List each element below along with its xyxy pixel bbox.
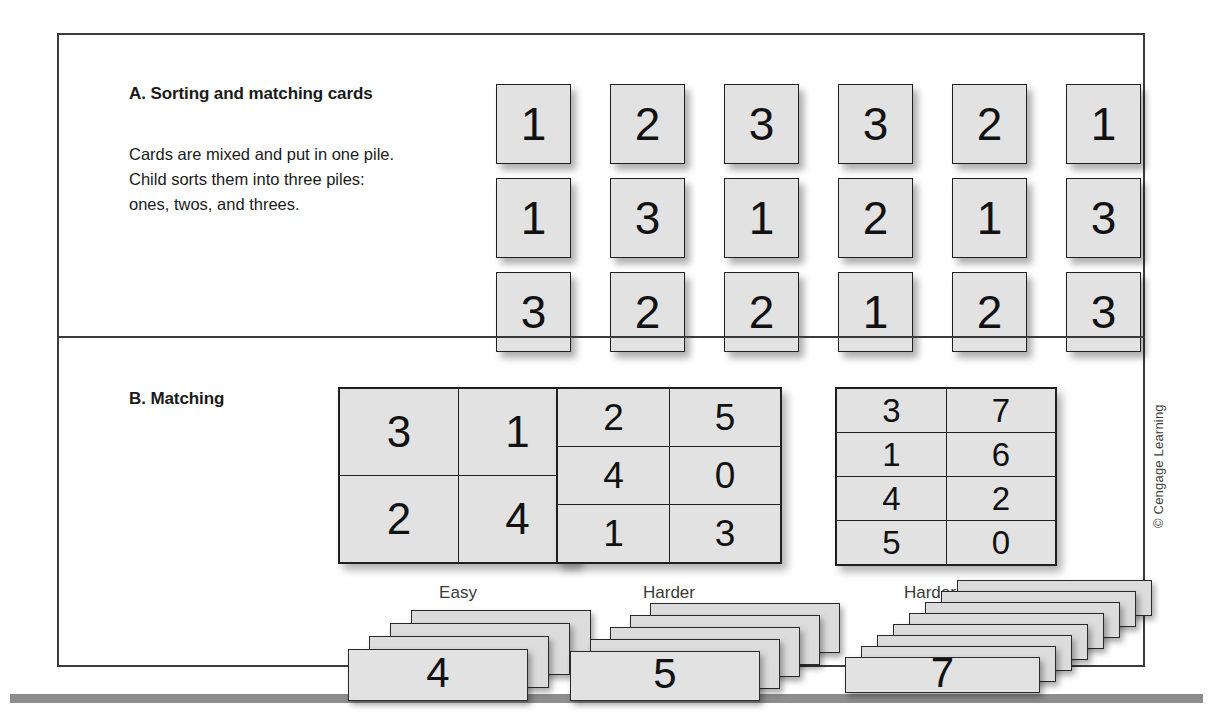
match-cell[interactable]: 1 [837, 433, 946, 476]
stack-card-front[interactable]: 5 [570, 651, 760, 701]
match-cell[interactable]: 4 [837, 477, 946, 520]
match-cell[interactable]: 0 [946, 521, 1055, 564]
number-card[interactable]: 1 [838, 272, 913, 352]
match-group-harder: 254013 Harder 5 [556, 387, 782, 564]
stack-front-value: 4 [426, 649, 449, 697]
copyright-note: © Cengage Learning [1151, 404, 1166, 528]
match-grid-easy: 3124 [338, 387, 578, 564]
panel-a-heading: A. Sorting and matching cards [129, 84, 373, 104]
match-cell[interactable]: 5 [837, 521, 946, 564]
number-card-grid: 123321131213322123 [496, 84, 1141, 352]
number-card[interactable]: 3 [1066, 178, 1141, 258]
number-card[interactable]: 1 [496, 178, 571, 258]
match-cell[interactable]: 2 [946, 477, 1055, 520]
number-card[interactable]: 2 [838, 178, 913, 258]
number-card[interactable]: 1 [1066, 84, 1141, 164]
match-group-harder-still: 37164250 Harder Still 7 [835, 387, 1057, 566]
difficulty-label-easy: Easy [338, 583, 578, 603]
number-card[interactable]: 2 [610, 272, 685, 352]
match-grid-row: 42 [837, 476, 1055, 520]
number-card[interactable]: 3 [838, 84, 913, 164]
match-cell[interactable]: 2 [340, 476, 458, 562]
match-cell[interactable]: 1 [558, 505, 669, 562]
match-grid-harder: 254013 [556, 387, 782, 564]
match-cell[interactable]: 2 [558, 389, 669, 446]
number-card[interactable]: 3 [610, 178, 685, 258]
match-cell[interactable]: 0 [669, 447, 780, 504]
number-card[interactable]: 3 [724, 84, 799, 164]
panel-a-description: Cards are mixed and put in one pile. Chi… [129, 142, 479, 217]
number-card[interactable]: 2 [724, 272, 799, 352]
match-cell[interactable]: 4 [558, 447, 669, 504]
panel-a-description-line: Cards are mixed and put in one pile. [129, 142, 479, 167]
panel-b-matching: B. Matching 3124 Easy 4 254013 Harder 5 … [118, 373, 1202, 700]
stack-front-value: 7 [931, 649, 954, 697]
number-card[interactable]: 1 [724, 178, 799, 258]
match-grid-row: 31 [340, 389, 576, 475]
panel-a-description-line: ones, twos, and threes. [129, 192, 479, 217]
number-card[interactable]: 1 [952, 178, 1027, 258]
match-cell[interactable]: 3 [837, 389, 946, 432]
number-card[interactable]: 1 [496, 84, 571, 164]
panel-a-description-line: Child sorts them into three piles: [129, 167, 479, 192]
match-grid-row: 16 [837, 432, 1055, 476]
card-stack-easy: 4 [328, 607, 588, 707]
match-grid-row: 37 [837, 389, 1055, 432]
number-card[interactable]: 3 [1066, 272, 1141, 352]
panel-divider [57, 336, 1145, 338]
match-grid-row: 40 [558, 446, 780, 504]
panel-a-sorting-and-matching: A. Sorting and matching cards Cards are … [118, 70, 1202, 371]
match-grid-row: 13 [558, 504, 780, 562]
match-grid-row: 25 [558, 389, 780, 446]
match-cell[interactable]: 6 [946, 433, 1055, 476]
difficulty-label-harder: Harder [556, 583, 782, 603]
stack-front-value: 5 [653, 650, 676, 698]
match-cell[interactable]: 5 [669, 389, 780, 446]
stack-card-front[interactable]: 7 [845, 657, 1040, 693]
match-group-easy: 3124 Easy 4 [338, 387, 578, 564]
number-card[interactable]: 2 [952, 84, 1027, 164]
stack-card-front[interactable]: 4 [348, 649, 528, 701]
number-card[interactable]: 3 [496, 272, 571, 352]
match-cell[interactable]: 7 [946, 389, 1055, 432]
panel-b-heading: B. Matching [129, 389, 224, 409]
match-grid-harder-still: 37164250 [835, 387, 1057, 566]
number-card[interactable]: 2 [952, 272, 1027, 352]
match-cell[interactable]: 3 [669, 505, 780, 562]
match-grid-row: 50 [837, 520, 1055, 564]
number-card[interactable]: 2 [610, 84, 685, 164]
figure-frame: A. Sorting and matching cards Cards are … [57, 33, 1145, 667]
match-grid-row: 24 [340, 475, 576, 562]
card-stack-harder-still: 7 [825, 599, 1105, 699]
match-cell[interactable]: 3 [340, 389, 458, 475]
